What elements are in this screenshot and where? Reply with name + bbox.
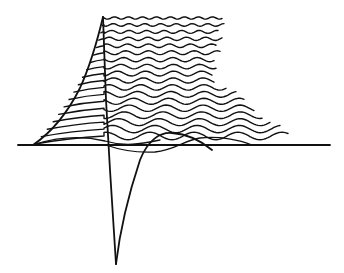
wave-trace	[78, 78, 214, 85]
wave-traces	[35, 17, 288, 144]
wave-trace	[96, 44, 216, 48]
wave-trace	[90, 58, 214, 63]
diagram-canvas	[0, 0, 344, 273]
wave-trace	[83, 71, 212, 77]
recovery-curve	[116, 133, 212, 264]
wave-trace	[93, 51, 220, 55]
wave-trace	[87, 64, 216, 70]
wave-trace	[101, 30, 218, 33]
wave-trace	[47, 119, 270, 130]
wave-trace	[53, 112, 262, 122]
wave-trace	[99, 37, 222, 40]
waterfall-diagram	[0, 0, 344, 273]
wave-trace	[102, 24, 224, 27]
wave-trace	[103, 17, 222, 19]
wave-trace	[69, 91, 236, 99]
wave-trace	[64, 98, 244, 107]
